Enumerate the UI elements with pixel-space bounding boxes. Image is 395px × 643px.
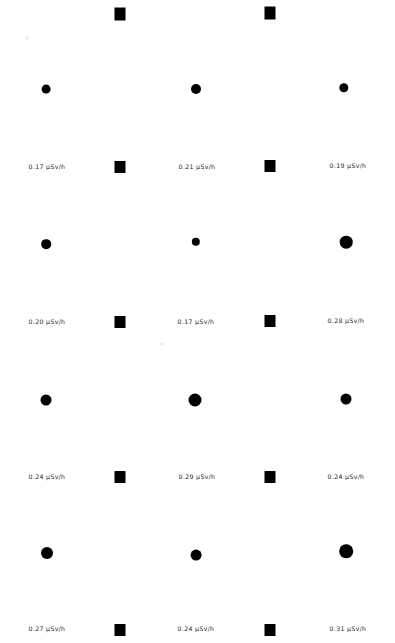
background-speck: [160, 343, 163, 345]
dose-rate-label: 0.28 µSv/h: [328, 318, 365, 324]
square-marker[interactable]: [115, 316, 126, 328]
dose-rate-label: 0.24 µSv/h: [328, 474, 365, 480]
dose-rate-label: 0.17 µSv/h: [178, 319, 215, 325]
dose-rate-map-canvas: 0.17 µSv/h0.21 µSv/h0.19 µSv/h0.20 µSv/h…: [0, 0, 395, 643]
dose-point-marker[interactable]: [191, 84, 201, 94]
square-marker[interactable]: [265, 471, 276, 483]
dose-point-marker[interactable]: [339, 83, 348, 92]
dose-point-marker[interactable]: [339, 544, 353, 558]
dose-point-marker[interactable]: [192, 238, 200, 246]
dose-rate-label: 0.29 µSv/h: [179, 474, 216, 480]
dose-point-marker[interactable]: [189, 394, 202, 407]
dose-point-marker[interactable]: [191, 550, 202, 561]
dose-point-marker[interactable]: [41, 239, 51, 249]
dose-rate-label: 0.24 µSv/h: [29, 474, 66, 480]
background-speck: [26, 37, 29, 40]
dose-rate-label: 0.20 µSv/h: [29, 319, 66, 325]
dose-rate-label: 0.21 µSv/h: [179, 164, 216, 170]
dose-point-marker[interactable]: [41, 395, 52, 406]
square-marker[interactable]: [265, 315, 276, 327]
dose-rate-label: 0.24 µSv/h: [178, 626, 215, 632]
square-marker[interactable]: [265, 160, 276, 172]
square-marker[interactable]: [265, 7, 276, 20]
square-marker[interactable]: [115, 624, 126, 636]
square-marker[interactable]: [265, 624, 276, 636]
dose-point-marker[interactable]: [42, 85, 51, 94]
square-marker[interactable]: [115, 161, 126, 173]
dose-rate-label: 0.19 µSv/h: [330, 163, 367, 169]
dose-point-marker[interactable]: [41, 547, 53, 559]
dose-point-marker[interactable]: [341, 394, 352, 405]
dose-rate-label: 0.31 µSv/h: [330, 626, 367, 632]
square-marker[interactable]: [115, 8, 126, 21]
dose-rate-label: 0.27 µSv/h: [29, 626, 66, 632]
square-marker[interactable]: [115, 471, 126, 483]
dose-point-marker[interactable]: [340, 236, 353, 249]
dose-rate-label: 0.17 µSv/h: [29, 164, 66, 170]
